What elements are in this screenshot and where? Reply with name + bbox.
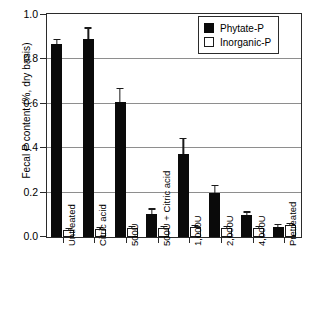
- x-axis-tick-label: 1,000U: [192, 215, 203, 246]
- error-bar-cap: [211, 185, 218, 186]
- error-bar-cap: [275, 224, 282, 225]
- legend-swatch-inorganic-p: [204, 37, 214, 47]
- x-axis-tick: [63, 237, 64, 243]
- error-bar: [214, 186, 215, 192]
- legend-label: Phytate-P: [220, 23, 264, 34]
- bar-chart-figure: Fecal P content (%, dry basis) 0.00.20.4…: [0, 0, 312, 330]
- x-axis-tick-label: 500U: [129, 223, 140, 246]
- x-axis-tick: [158, 237, 159, 243]
- y-axis-title: Fecal P content (%, dry basis): [21, 16, 32, 206]
- bar-group[interactable]: [110, 14, 142, 237]
- chart-legend: Phytate-PInorganic-P: [198, 16, 279, 54]
- x-axis-tick-label: 2,000U: [224, 215, 235, 246]
- y-axis-tick: [40, 103, 47, 104]
- x-axis-tick-label: Untreated: [66, 204, 77, 246]
- bar-inorganic-p[interactable]: [127, 14, 138, 237]
- y-axis-tick: [40, 147, 47, 148]
- y-axis-tick-label: 0.0: [23, 230, 38, 242]
- y-axis-tick-label: 1.0: [23, 8, 38, 20]
- y-axis-tick: [40, 58, 47, 59]
- y-axis-tick-label: 0.4: [23, 141, 38, 153]
- x-axis-tick-label: Pretreated: [287, 202, 298, 246]
- legend-label: Inorganic-P: [220, 37, 271, 48]
- bar-rect: [146, 214, 157, 237]
- x-axis-tick: [126, 237, 127, 243]
- error-bar-cap: [148, 208, 155, 209]
- bar-phytate-p[interactable]: [178, 14, 189, 237]
- error-bar-cap: [180, 138, 187, 139]
- legend-item[interactable]: Phytate-P: [204, 21, 271, 35]
- error-bar: [119, 89, 120, 101]
- bar-rect: [51, 44, 62, 237]
- x-axis-tick: [189, 237, 190, 243]
- x-axis-tick: [284, 237, 285, 243]
- bar-rect: [115, 102, 126, 237]
- x-axis-tick-label: Citric acid: [97, 204, 108, 246]
- y-axis-tick: [40, 192, 47, 193]
- error-bar: [88, 29, 89, 40]
- bar-rect: [83, 39, 94, 237]
- error-bar-cap: [53, 39, 60, 40]
- bar-phytate-p[interactable]: [51, 14, 62, 237]
- error-bar: [183, 139, 184, 153]
- x-axis-tick-label: 500U + Citric acid: [161, 171, 172, 246]
- y-axis-tick-label: 0.8: [23, 52, 38, 64]
- bar-rect: [178, 154, 189, 237]
- legend-item[interactable]: Inorganic-P: [204, 35, 271, 49]
- bar-rect: [241, 215, 252, 237]
- error-bar-cap: [243, 211, 250, 212]
- bar-phytate-p[interactable]: [115, 14, 126, 237]
- bar-rect: [273, 227, 284, 237]
- error-bar: [151, 210, 152, 214]
- error-bar: [56, 40, 57, 44]
- error-bar: [246, 213, 247, 216]
- x-axis-tick: [253, 237, 254, 243]
- error-bar: [278, 225, 279, 227]
- y-axis-tick: [40, 14, 47, 15]
- bar-phytate-p[interactable]: [146, 14, 157, 237]
- bar-rect: [209, 193, 220, 237]
- error-bar-cap: [117, 88, 124, 89]
- bar-phytate-p[interactable]: [83, 14, 94, 237]
- x-axis-tick: [94, 237, 95, 243]
- error-bar-cap: [85, 27, 92, 28]
- legend-swatch-phytate-p: [204, 23, 214, 33]
- y-axis-tick: [40, 236, 47, 237]
- x-axis-tick: [221, 237, 222, 243]
- y-axis-tick-label: 0.2: [23, 186, 38, 198]
- y-axis-tick-label: 0.6: [23, 97, 38, 109]
- x-axis-tick-label: 4,000U: [256, 215, 267, 246]
